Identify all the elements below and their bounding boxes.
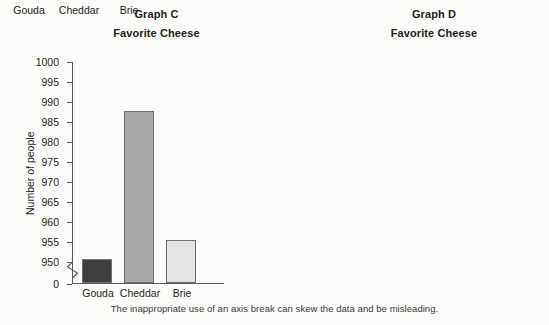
x-tick-label: Cheddar: [120, 287, 160, 299]
y-tick-label: 975: [41, 162, 59, 163]
graph-c-y-axis-label: Number of people: [24, 132, 36, 215]
graph-c-bars: GoudaCheddarBrie: [72, 62, 202, 283]
graph-d-title: Graph D: [319, 8, 549, 21]
x-tick-label: Brie: [173, 287, 192, 299]
y-tick-label: 990: [41, 102, 59, 103]
chart-panel-graph-c: Graph C Favorite Cheese Number of people…: [0, 0, 275, 300]
graph-d-titles: Graph D Favorite Cheese: [275, 8, 549, 40]
y-tick-label: 1000: [36, 62, 59, 63]
x-tick-label: Cheddar: [59, 4, 99, 16]
y-tick-label: 970: [41, 182, 59, 183]
y-tick-label: 985: [41, 122, 59, 123]
x-tick-label: Brie: [120, 4, 139, 16]
y-tick-label: 960: [41, 222, 59, 223]
y-tick-label: 995: [41, 82, 59, 83]
y-tick-label: 0: [53, 284, 59, 285]
bar-gouda: Gouda: [82, 259, 112, 283]
graph-d-subtitle: Favorite Cheese: [319, 27, 549, 40]
bar-cheddar: Cheddar: [124, 111, 154, 283]
axis-break-icon: [66, 256, 79, 284]
y-tick-label: 950: [41, 262, 59, 263]
chart-panel-graph-d: Graph D Favorite Cheese: [275, 0, 549, 300]
graph-c-plot-area: 09509559609659709759809859909951000 Goud…: [72, 62, 202, 284]
graph-c-x-axis: [72, 283, 224, 284]
y-tick-label: 955: [41, 242, 59, 243]
y-tick-label: 965: [41, 202, 59, 203]
y-tick: 0: [67, 284, 72, 285]
bar-brie: Brie: [166, 240, 196, 283]
figure-caption: The inappropriate use of an axis break c…: [0, 303, 549, 314]
x-tick-label: Gouda: [13, 4, 45, 16]
figure: Graph C Favorite Cheese Number of people…: [0, 0, 549, 325]
y-tick-label: 980: [41, 142, 59, 143]
graph-c-subtitle: Favorite Cheese: [38, 27, 275, 40]
x-tick-label: Gouda: [82, 287, 114, 299]
